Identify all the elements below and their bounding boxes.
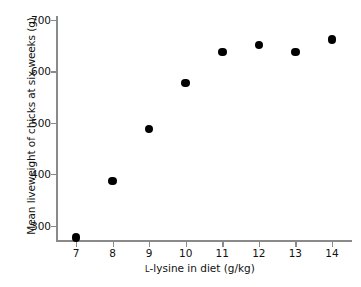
data-point — [255, 41, 264, 50]
data-point — [72, 233, 81, 242]
x-tick-label: 13 — [289, 247, 302, 259]
data-point — [108, 177, 117, 186]
y-tick-mark — [51, 226, 57, 227]
data-point — [291, 48, 300, 57]
x-tick-label: 8 — [109, 247, 116, 259]
x-tick-label: 9 — [146, 247, 153, 259]
x-tick-label: 12 — [252, 247, 265, 259]
y-tick-mark — [51, 20, 57, 21]
y-tick-label: 600 — [31, 65, 51, 77]
y-tick-label: 400 — [31, 168, 51, 180]
y-tick-mark — [51, 123, 57, 124]
y-tick-mark — [51, 174, 57, 175]
y-axis-line — [56, 16, 58, 242]
x-axis-title-rest: -lysine in diet (g/kg) — [150, 262, 255, 274]
chart-figure: Mean liveweight of chicks at six weeks (… — [0, 0, 361, 287]
y-tick-label: 300 — [31, 220, 51, 232]
x-tick-label: 10 — [179, 247, 192, 259]
x-tick-label: 14 — [325, 247, 338, 259]
x-axis-title: L-lysine in diet (g/kg) — [60, 262, 340, 274]
plot-area: 300400500600700 7891011121314 — [56, 16, 352, 242]
data-point — [145, 125, 154, 134]
data-point — [328, 35, 337, 44]
y-tick-mark — [51, 71, 57, 72]
data-point — [218, 48, 227, 57]
x-axis-line — [56, 240, 352, 242]
x-tick-label: 7 — [73, 247, 80, 259]
y-tick-label: 700 — [31, 14, 51, 26]
x-tick-label: 11 — [216, 247, 229, 259]
y-tick-label: 500 — [31, 117, 51, 129]
data-point — [181, 79, 190, 88]
